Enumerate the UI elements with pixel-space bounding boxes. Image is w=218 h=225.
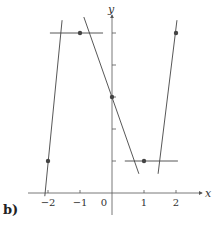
data-point bbox=[142, 159, 146, 163]
data-point bbox=[78, 31, 82, 35]
x-tick-label: −2 bbox=[41, 197, 56, 208]
y-axis-label: y bbox=[107, 3, 115, 16]
axes bbox=[28, 15, 202, 215]
data-point bbox=[174, 31, 178, 35]
x-tick-label: 0 bbox=[101, 197, 107, 208]
x-axis-label: x bbox=[205, 187, 212, 200]
tangent-lines-diagram: −2−1012 x y b) bbox=[0, 0, 218, 225]
tangent-lines bbox=[45, 17, 178, 196]
x-tick-label: 2 bbox=[173, 197, 179, 208]
axis-ticks: −2−1012 bbox=[41, 33, 180, 208]
x-tick-label: 1 bbox=[141, 197, 147, 208]
tangent-line bbox=[45, 20, 62, 196]
x-tick-label: −1 bbox=[73, 197, 88, 208]
part-label: b) bbox=[3, 202, 18, 217]
tangent-line bbox=[158, 20, 177, 174]
data-point bbox=[46, 159, 50, 163]
data-point bbox=[110, 95, 114, 99]
